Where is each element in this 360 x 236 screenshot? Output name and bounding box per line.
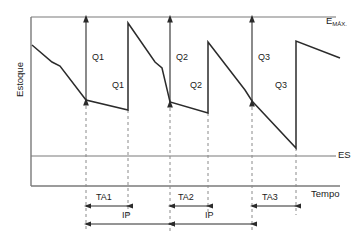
q2-lower-label: Q2: [190, 80, 202, 90]
y-axis-label: Estoque: [14, 50, 25, 110]
inventory-sawtooth-chart: Estoque Tempo EMÁX. ES Q1 Q1 Q2 Q2 Q3 Q3…: [0, 0, 360, 236]
q3-upper-label: Q3: [258, 52, 270, 62]
ip1-label: IP: [122, 210, 131, 220]
dashed-guide-group: [86, 100, 296, 232]
inventory-level-curve: [32, 23, 340, 148]
ta2-label: TA2: [178, 192, 194, 202]
quantity-arrow-group: [86, 17, 252, 102]
ip2-label: IP: [205, 210, 214, 220]
ta3-label: TA3: [262, 192, 278, 202]
ta1-label: TA1: [96, 192, 112, 202]
es-label: ES: [338, 149, 351, 160]
q1-upper-label: Q1: [92, 52, 104, 62]
emax-label: EMÁX.: [326, 10, 347, 28]
q1-lower-label: Q1: [112, 80, 124, 90]
x-axis-label: Tempo: [311, 188, 340, 199]
q2-upper-label: Q2: [176, 52, 188, 62]
emax-label-subscript: MÁX.: [332, 21, 347, 27]
q3-lower-label: Q3: [275, 80, 287, 90]
